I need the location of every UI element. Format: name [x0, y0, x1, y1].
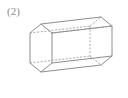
hexagonal-prism-drawing: [0, 0, 128, 98]
figure-container: (2): [0, 0, 128, 98]
